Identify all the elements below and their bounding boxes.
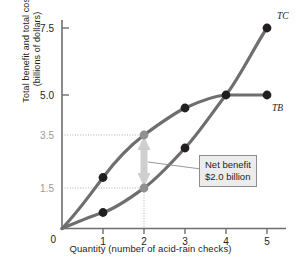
data-point-tc-2 [140, 184, 149, 193]
data-point-tb-4 [222, 91, 231, 100]
chart-plot: 7.5 5.0 3.5 1.5 0 1 2 3 4 5 [0, 0, 301, 267]
net-benefit-callout-line1: Net benefit [205, 159, 251, 171]
series-line-tc [62, 28, 267, 229]
chart-container: Total benefit and total cost (billions o… [0, 0, 301, 267]
net-benefit-callout: Net benefit $2.0 billion [199, 155, 257, 187]
data-point-tb-3 [181, 104, 190, 113]
y-axis-label-line2: (billions of dollars) [32, 0, 43, 129]
x-axis-label: Quantity (number of acid-rain checks) [0, 243, 301, 254]
y-axis-label: Total benefit and total cost (billions o… [21, 0, 43, 129]
series-label-tb: TB [272, 103, 283, 113]
net-benefit-callout-line2: $2.0 billion [205, 171, 251, 183]
y-axis-label-line1: Total benefit and total cost [21, 0, 32, 129]
series-label-tc: TC [277, 11, 289, 21]
data-point-tc-3 [181, 144, 190, 153]
data-point-tb-1 [99, 173, 108, 182]
data-point-tb-2 [140, 131, 149, 140]
y-tick-label-1_5: 1.5 [40, 183, 54, 194]
callout-leader-line [148, 162, 201, 169]
arrow-shaft [141, 147, 148, 177]
y-tick-label-3_5: 3.5 [40, 130, 54, 141]
data-point-tb-5 [263, 91, 272, 100]
y-axis-ticks: 7.5 5.0 3.5 1.5 0 [40, 23, 69, 245]
net-benefit-arrow [138, 136, 151, 187]
data-point-tc-1 [99, 208, 108, 217]
data-point-tc-5 [263, 24, 272, 33]
